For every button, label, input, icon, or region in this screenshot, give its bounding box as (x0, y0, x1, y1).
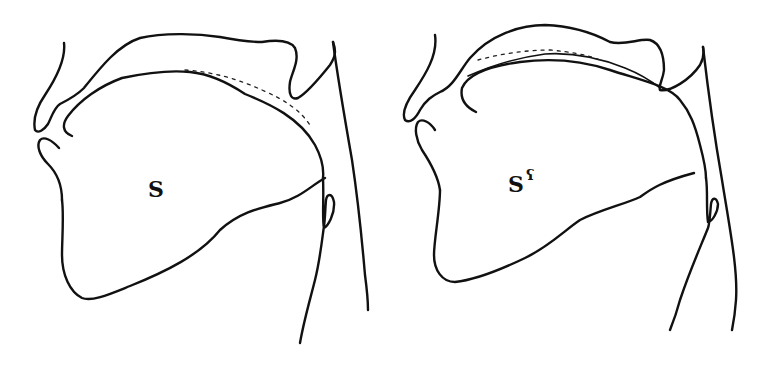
pharyngeal-superscript: ʕ (526, 166, 534, 184)
left-panel-label: S (148, 178, 164, 200)
right-upper-lip (404, 25, 704, 121)
right-tongue-upper-contour (468, 54, 660, 88)
left-epiglottis (300, 178, 334, 343)
right-epiglottis (670, 178, 718, 330)
left-jaw-contour (62, 178, 325, 299)
vocal-tract-figure: S Sʕ (0, 0, 771, 368)
right-lower-lip (416, 120, 440, 190)
left-palate-contour (64, 71, 323, 178)
left-pharynx-back-wall (333, 42, 368, 310)
right-label-base: S (508, 171, 524, 197)
left-vocal-tract-diagram (34, 34, 368, 343)
right-panel-label: Sʕ (508, 172, 534, 195)
right-palate-contour (462, 60, 706, 178)
right-jaw-contour (434, 173, 694, 282)
left-lower-lip (38, 138, 62, 200)
left-label-base: S (148, 176, 164, 202)
right-vocal-tract-diagram (404, 25, 736, 330)
vocal-tract-drawings (0, 0, 771, 368)
